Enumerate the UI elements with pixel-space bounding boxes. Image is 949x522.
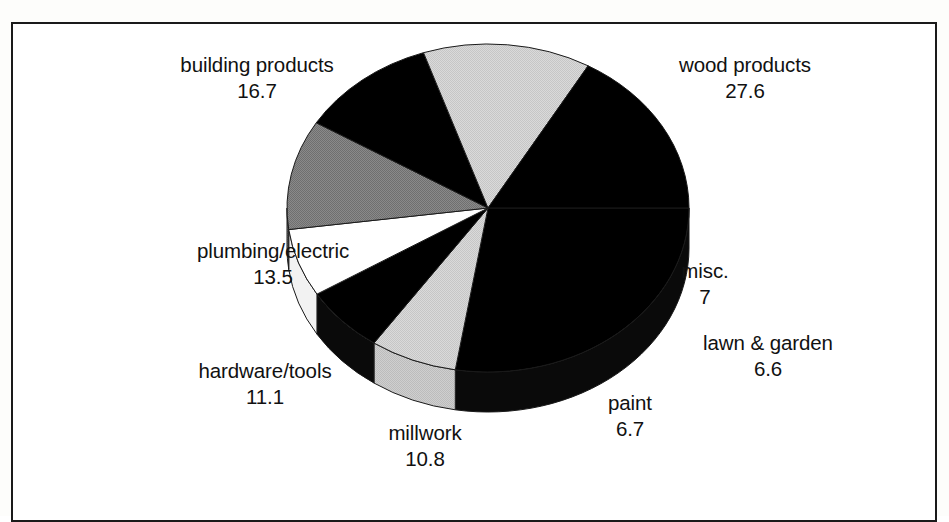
slice-label-plumbing-electric: plumbing/electric 13.5 — [138, 238, 408, 290]
slice-label-paint: paint 6.7 — [540, 390, 720, 442]
slice-label-value: 10.8 — [300, 446, 550, 472]
slice-label-wood-products: wood products 27.6 — [600, 52, 890, 104]
slice-label-misc: misc. 7 — [600, 258, 810, 310]
slice-label-building-products: building products 16.7 — [112, 52, 402, 104]
slice-label-name: paint — [540, 390, 720, 416]
slice-label-millwork: millwork 10.8 — [300, 420, 550, 472]
slice-label-value: 16.7 — [112, 78, 402, 104]
slice-label-name: millwork — [300, 420, 550, 446]
slice-label-value: 13.5 — [138, 264, 408, 290]
slice-label-value: 7 — [600, 284, 810, 310]
slice-label-value: 27.6 — [600, 78, 890, 104]
slice-label-name: misc. — [600, 258, 810, 284]
slice-label-value: 6.6 — [628, 356, 908, 382]
slice-label-lawn-garden: lawn & garden 6.6 — [628, 330, 908, 382]
slice-label-name: plumbing/electric — [138, 238, 408, 264]
slice-label-name: lawn & garden — [628, 330, 908, 356]
slice-label-name: building products — [112, 52, 402, 78]
slice-label-name: wood products — [600, 52, 890, 78]
slice-label-name: hardware/tools — [120, 358, 410, 384]
slice-label-value: 11.1 — [120, 384, 410, 410]
slice-label-hardware-tools: hardware/tools 11.1 — [120, 358, 410, 410]
slice-label-value: 6.7 — [540, 416, 720, 442]
